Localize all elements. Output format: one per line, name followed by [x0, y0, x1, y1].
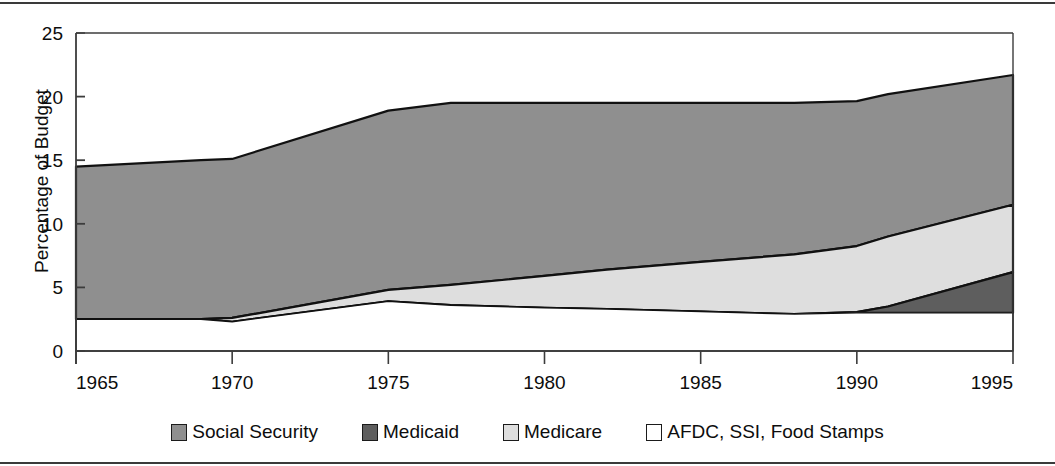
- x-tick-label: 1995: [971, 372, 1013, 393]
- figure-bottom-rule: [0, 462, 1055, 464]
- y-tick-label: 15: [42, 150, 63, 171]
- y-tick-label: 20: [42, 87, 63, 108]
- legend-label: Medicare: [524, 421, 602, 443]
- legend-swatch-icon: [362, 424, 378, 441]
- x-tick-label: 1975: [367, 372, 409, 393]
- y-tick-label: 0: [52, 341, 63, 362]
- legend-label: AFDC, SSI, Food Stamps: [667, 421, 883, 443]
- legend-item: Medicare: [503, 421, 602, 443]
- plot-area: 0510152025 1965197019751980198519901995: [0, 0, 1055, 400]
- area-series-group: [76, 75, 1013, 351]
- legend-swatch-icon: [171, 424, 187, 441]
- chart-legend: Social SecurityMedicaidMedicareAFDC, SSI…: [0, 412, 1055, 452]
- x-tick-label: 1970: [211, 372, 253, 393]
- stacked-area-chart: 0510152025 1965197019751980198519901995: [0, 0, 1055, 400]
- x-tick-label: 1990: [836, 372, 878, 393]
- x-tick-group: 1965197019751980198519901995: [76, 351, 1013, 393]
- y-tick-label: 5: [52, 277, 63, 298]
- legend-item: Social Security: [171, 421, 318, 443]
- x-tick-label: 1965: [76, 372, 118, 393]
- y-tick-label: 25: [42, 23, 63, 44]
- legend-label: Social Security: [192, 421, 318, 443]
- figure: Percentage of Budget 0510152025 19651970…: [0, 0, 1055, 466]
- x-tick-label: 1980: [523, 372, 565, 393]
- legend-item: Medicaid: [362, 421, 459, 443]
- x-tick-label: 1985: [680, 372, 722, 393]
- legend-swatch-icon: [646, 424, 662, 441]
- legend-swatch-icon: [503, 424, 519, 441]
- y-tick-label: 10: [42, 214, 63, 235]
- legend-label: Medicaid: [383, 421, 459, 443]
- legend-item: AFDC, SSI, Food Stamps: [646, 421, 883, 443]
